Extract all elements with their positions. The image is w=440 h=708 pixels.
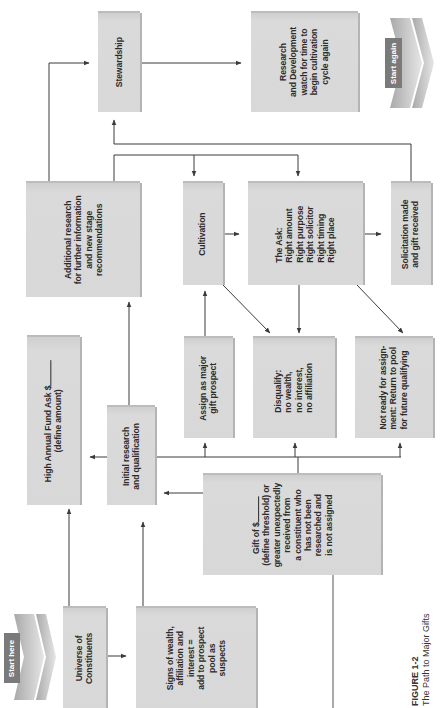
- gift-line: Gift of $: [251, 522, 261, 554]
- node-solicitation: Solicitation made and gift received: [391, 183, 431, 285]
- gift-line: received from: [282, 483, 292, 567]
- node-research-development: Research and Development watch for time …: [251, 13, 358, 112]
- rd-line: Research: [278, 27, 288, 97]
- figure-title: The Path to Major Gifts: [421, 613, 431, 706]
- rd-line: begin cultivation: [310, 27, 320, 97]
- node-cultivation: Cultivation: [183, 183, 223, 285]
- solicitation-line: and gift received: [411, 199, 421, 268]
- start-here-label: Start here: [8, 639, 17, 676]
- start-here-marker: Start here: [4, 633, 20, 683]
- amount-blank: [43, 360, 52, 386]
- disqualify-line: no interest,: [294, 363, 304, 413]
- gift-line: researched and: [313, 483, 323, 567]
- additional-line: recommendations: [93, 196, 103, 285]
- additional-line: and new stage: [83, 196, 93, 285]
- node-initial-research: Initial research and qualification: [107, 407, 155, 505]
- node-unexpected-gift: Gift of $ (define threshold) or greater …: [203, 475, 381, 575]
- node-additional-research: Additional research for further informat…: [26, 183, 140, 297]
- ask-line: Right place: [326, 206, 336, 263]
- stewardship-label: Stewardship: [114, 38, 124, 88]
- figure-caption: FIGURE 1-2 The Path to Major Gifts: [410, 613, 432, 706]
- figure-number: FIGURE 1-2: [410, 613, 421, 706]
- signs-line: suspects: [217, 626, 227, 690]
- rd-line: watch for time to: [299, 27, 309, 97]
- gift-line: (define threshold) or: [261, 483, 271, 567]
- gift-line: has not been: [303, 483, 313, 567]
- start-again-label: Start again: [389, 42, 398, 83]
- ask-line: Right solicitor: [305, 206, 315, 263]
- ask-line: Right amount: [285, 206, 295, 263]
- disqualify-line: no wealth,: [284, 363, 294, 413]
- universe-line: Universe of: [74, 632, 84, 683]
- signs-line: add to prospect: [196, 626, 206, 690]
- gift-line: a constituent who: [292, 483, 302, 567]
- threshold-blank: [250, 496, 259, 522]
- gift-line: greater unexpectedly: [272, 483, 282, 567]
- additional-line: Additional research: [62, 196, 72, 285]
- node-the-ask: The Ask: Right amount Right purpose Righ…: [248, 183, 363, 285]
- rd-line: cycle again: [320, 27, 330, 97]
- signs-line: pool as: [206, 626, 216, 690]
- initial-line: and qualification: [131, 423, 141, 490]
- ask-line: Right purpose: [295, 206, 305, 263]
- high-annual-line: High Annual Fund Ask $: [44, 386, 54, 482]
- node-universe: Universe of Constituents: [63, 608, 106, 708]
- node-high-annual-fund: High Annual Fund Ask $ (define amount): [27, 337, 80, 505]
- signs-line: affiliation and: [175, 626, 185, 690]
- solicitation-line: Solicitation made: [401, 199, 411, 268]
- signs-line: interest =: [186, 626, 196, 690]
- rd-line: and Development: [289, 27, 299, 97]
- disqualify-line: Disqualify:: [273, 363, 283, 413]
- cultivation-label: Cultivation: [198, 212, 208, 255]
- high-annual-line: (define amount): [54, 360, 64, 482]
- assign-line: gift prospect: [209, 356, 219, 421]
- node-signs-of-wealth: Signs of wealth, affiliation and interes…: [136, 608, 256, 708]
- not-ready-line: Not ready for assign-: [378, 346, 388, 430]
- node-stewardship: Stewardship: [98, 13, 140, 112]
- initial-line: Initial research: [121, 423, 131, 490]
- node-disqualify: Disqualify: no wealth, no interest, no a…: [253, 338, 335, 438]
- signs-line: Signs of wealth,: [165, 626, 175, 690]
- gift-line: is not assigned: [324, 483, 334, 567]
- node-assign-prospect: Assign as major gift prospect: [184, 338, 233, 438]
- universe-line: Constituents: [85, 632, 95, 683]
- not-ready-line: for future qualifying: [399, 346, 409, 430]
- ask-line: Right timing: [316, 206, 326, 263]
- start-again-marker: Start again: [385, 38, 402, 88]
- additional-line: for further information: [73, 196, 83, 285]
- not-ready-line: ment: Return to pool: [389, 346, 399, 430]
- assign-line: Assign as major: [198, 356, 208, 421]
- node-not-ready: Not ready for assign- ment: Return to po…: [355, 338, 433, 438]
- disqualify-line: no affiliation: [304, 363, 314, 413]
- ask-line: The Ask:: [274, 206, 284, 263]
